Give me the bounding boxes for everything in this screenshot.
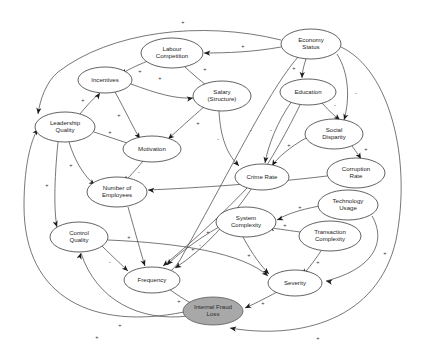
causal-link[interactable]: - [217,111,241,168]
node-transaction_complexity[interactable]: TransactionComplexity [299,221,361,251]
node-ellipse [50,222,108,252]
node-ellipse [141,38,203,68]
link-polarity-label: + [127,234,130,240]
link-polarity-label: + [177,298,180,304]
causal-link[interactable]: + [131,75,193,101]
node-frequency[interactable]: Frequency [124,267,180,293]
link-polarity-label: + [95,334,98,340]
link-polarity-label: + [287,142,290,148]
node-control_quality[interactable]: ControlQuality [50,222,108,252]
causal-link[interactable]: + [69,142,97,187]
link-polarity-label: + [316,259,319,265]
link-polarity-label: + [81,97,84,103]
causal-link[interactable]: + [115,92,142,140]
node-ellipse [193,81,251,111]
arrowhead-icon [244,303,252,310]
link-path [131,84,193,98]
causal-link[interactable]: + [270,138,306,167]
node-ellipse [35,112,95,142]
node-social_disparity[interactable]: SocialDisparity [305,119,363,149]
link-polarity-label: - [355,90,357,96]
link-polarity-label: + [181,19,184,25]
link-polarity-label: + [117,112,120,118]
node-ellipse [305,119,363,149]
node-education[interactable]: Education [280,79,336,105]
node-ellipse [216,207,276,237]
link-polarity-label: + [292,65,295,71]
node-ellipse [183,297,243,325]
link-path [69,142,95,185]
node-economy_status[interactable]: EconomyStatus [281,29,341,59]
causal-link[interactable]: - [337,54,357,121]
causal-link[interactable]: + [204,43,281,55]
link-polarity-label: + [364,146,367,152]
node-system_complexity[interactable]: SystemComplexity [216,207,276,237]
node-incentives[interactable]: Incentives [78,67,132,93]
node-corruption_rate[interactable]: CorruptionRate [327,158,385,188]
link-polarity-label: + [118,322,121,328]
arrowhead-icon [186,95,193,101]
arrowhead-icon [140,259,147,267]
link-polarity-label: + [241,43,244,49]
link-polarity-label: + [298,204,301,210]
link-polarity-label: - [334,102,336,108]
node-ellipse [235,164,289,190]
causal-link[interactable]: + [276,204,320,222]
node-ellipse [280,79,336,105]
node-severity[interactable]: Severity [268,270,322,296]
causal-link[interactable]: - [262,101,292,163]
link-polarity-label: + [191,246,194,252]
link-polarity-label: + [383,250,386,256]
link-polarity-label: + [261,300,264,306]
node-ellipse [299,221,361,251]
link-path [55,142,58,227]
link-path [337,54,348,120]
causal-link[interactable]: + [45,142,59,228]
link-polarity-label: + [138,68,141,74]
diagram-svg: ++++---++-++++-+++-+++++++++++--+--++ La… [0,0,422,348]
link-polarity-label: + [69,162,72,168]
causal-link[interactable]: + [243,237,271,276]
node-salary_structure[interactable]: Salary(Structure) [193,81,251,111]
node-number_of_employees[interactable]: Number ofEmployees [87,177,147,207]
causal-loop-diagram-canvas: ++++---++-++++-+++-+++++++++++--+--++ La… [0,0,422,348]
link-polarity-label: + [108,129,111,135]
link-polarity-label: - [138,169,140,175]
node-ellipse [281,29,341,59]
node-labour_competition[interactable]: LabourCompetition [141,38,203,68]
causal-link[interactable]: + [244,292,277,310]
link-polarity-label: + [316,335,319,341]
arrowhead-icon [148,187,154,193]
link-polarity-label: - [270,127,272,133]
link-polarity-label: + [45,182,48,188]
link-polarity-label: + [203,66,206,72]
node-motivation[interactable]: Motivation [123,136,181,162]
node-leadership_quality[interactable]: LeadershipQuality [35,112,95,142]
link-polarity-label: + [283,222,286,228]
link-path [265,101,292,163]
causal-link[interactable]: - [102,246,130,273]
node-ellipse [268,270,322,296]
causal-link[interactable]: + [165,227,219,267]
node-ellipse [123,136,181,162]
link-polarity-label: + [247,252,250,258]
arrowhead-icon [262,156,268,163]
link-path [102,246,128,271]
causal-link[interactable]: + [166,106,205,141]
link-polarity-label: - [199,242,201,248]
link-polarity-label: + [196,120,199,126]
node-technology_usage[interactable]: TechnologyUsage [318,190,378,220]
link-polarity-label: + [158,75,161,81]
causal-link[interactable]: + [127,207,147,267]
node-ellipse [87,177,147,207]
node-ellipse [124,267,180,293]
arrowhead-icon [77,252,84,260]
link-polarity-label: - [217,136,219,142]
node-ellipse [327,158,385,188]
node-internal_fraud_loss[interactable]: Internal FraudLoss [183,297,243,325]
link-polarity-label: - [250,127,252,133]
causal-link[interactable]: + [80,92,102,114]
node-ellipse [318,190,378,220]
node-crime_rate[interactable]: Crime Rate [235,164,289,190]
node-layer: LabourCompetitionEconomyStatusIncentives… [35,29,385,325]
